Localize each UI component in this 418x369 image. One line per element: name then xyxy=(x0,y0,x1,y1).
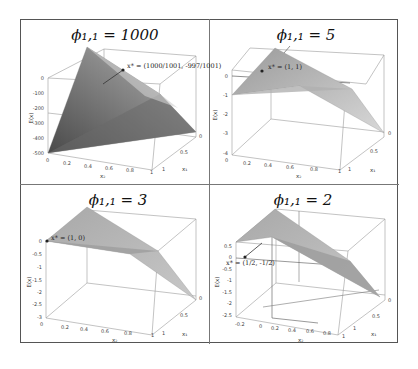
svg-text:-1: -1 xyxy=(223,92,228,98)
svg-text:0.8: 0.8 xyxy=(126,167,134,173)
optimum-point xyxy=(121,68,124,71)
svg-text:0.4: 0.4 xyxy=(84,163,92,169)
z-axis-label: E(x) xyxy=(26,276,32,287)
svg-text:0.6: 0.6 xyxy=(306,328,314,334)
svg-text:0.4: 0.4 xyxy=(264,162,272,168)
svg-text:0.5: 0.5 xyxy=(180,312,188,318)
svg-text:1: 1 xyxy=(162,330,165,336)
y-ticks: 0 0.5 1 xyxy=(353,297,391,331)
svg-text:0.8: 0.8 xyxy=(323,330,331,336)
svg-text:-500: -500 xyxy=(33,150,44,156)
svg-text:-4: -4 xyxy=(223,150,228,156)
panel-title: ϕ₁,₁ = 3 xyxy=(89,191,148,209)
svg-text:0: 0 xyxy=(225,73,228,79)
svg-text:0: 0 xyxy=(388,130,391,136)
svg-text:0.4: 0.4 xyxy=(80,326,88,332)
svg-text:-0.5: -0.5 xyxy=(32,251,42,257)
z-axis-label: E(x) xyxy=(214,276,220,287)
panel-title: ϕ₁,₁ = 5 xyxy=(277,26,336,44)
svg-text:0: 0 xyxy=(39,238,42,244)
svg-text:-1.5: -1.5 xyxy=(32,277,42,283)
svg-text:0: 0 xyxy=(229,254,232,260)
optimum-annotation: x* = (1/2, -1/2) xyxy=(226,259,275,267)
svg-text:0: 0 xyxy=(41,75,44,81)
svg-text:0.2: 0.2 xyxy=(271,325,279,331)
surface xyxy=(46,207,196,300)
svg-text:0.4: 0.4 xyxy=(288,327,296,333)
panel-3: ϕ₁,₁ = 3 x* = (1, 0) 0 -0.5 -1 -1.5 -2 -… xyxy=(26,191,202,343)
y-axis-label: x₁ xyxy=(182,331,187,337)
panel-1: ϕ₁,₁ = 1000 x* = (1000/1001, -997/1001) … xyxy=(28,26,222,179)
z-ticks: 0 -1 -2 -3 -4 xyxy=(223,73,228,156)
svg-text:0: 0 xyxy=(40,321,43,327)
optimum-annotation: x* = (1, 1) xyxy=(268,63,302,71)
figure: ϕ₁,₁ = 1000 x* = (1000/1001, -997/1001) … xyxy=(0,0,418,369)
z-ticks: 0.5 0 -0.5 -1 -1.5 -2 -2.5 xyxy=(222,243,232,318)
svg-text:-2.5: -2.5 xyxy=(222,312,232,318)
x-ticks: 0 0.2 0.4 0.6 0.8 1 xyxy=(225,157,341,174)
svg-text:0: 0 xyxy=(259,323,262,329)
svg-text:1: 1 xyxy=(151,332,154,338)
svg-text:-1.5: -1.5 xyxy=(222,289,232,295)
svg-text:-1: -1 xyxy=(37,264,42,270)
x-axis-label: x₂ xyxy=(296,173,301,179)
svg-text:0.5: 0.5 xyxy=(180,149,188,155)
x-ticks: -0.2 0 0.2 0.4 0.6 0.8 1 xyxy=(235,321,345,339)
svg-text:-3: -3 xyxy=(223,130,228,136)
optimum-point xyxy=(45,239,48,242)
svg-text:-2.5: -2.5 xyxy=(32,301,42,307)
y-axis-label: x₁ xyxy=(182,166,187,172)
svg-text:-200: -200 xyxy=(33,105,44,111)
x-axis-label: x₂ xyxy=(112,337,117,343)
z-axis-label: E(x) xyxy=(28,112,34,123)
x-ticks: 0 0.2 0.4 0.6 0.8 1 xyxy=(40,321,154,338)
y-axis-label: x₁ xyxy=(370,167,375,173)
y-axis-label: x₁ xyxy=(371,331,376,337)
svg-text:1: 1 xyxy=(150,169,153,175)
svg-text:-0.2: -0.2 xyxy=(235,321,245,327)
svg-text:0.2: 0.2 xyxy=(61,324,69,330)
svg-text:0.6: 0.6 xyxy=(286,164,294,170)
svg-text:1: 1 xyxy=(338,168,341,174)
svg-text:0: 0 xyxy=(225,157,228,163)
svg-text:-300: -300 xyxy=(33,120,44,126)
svg-text:-1: -1 xyxy=(227,277,232,283)
svg-text:0.5: 0.5 xyxy=(370,148,378,154)
svg-text:0.8: 0.8 xyxy=(310,166,318,172)
svg-text:1: 1 xyxy=(348,166,351,172)
svg-text:-0.5: -0.5 xyxy=(222,266,232,272)
svg-text:0: 0 xyxy=(388,297,391,303)
svg-text:0.8: 0.8 xyxy=(124,330,132,336)
svg-text:0.2: 0.2 xyxy=(63,160,71,166)
svg-text:-3: -3 xyxy=(37,314,42,320)
z-ticks: 0 -100 -200 -300 -400 -500 xyxy=(33,75,44,156)
z-axis-label: E(x) xyxy=(212,109,218,120)
z-ticks: 0 -0.5 -1 -1.5 -2 -2.5 -3 xyxy=(32,238,42,320)
svg-text:-2: -2 xyxy=(223,111,228,117)
svg-text:0.6: 0.6 xyxy=(105,165,113,171)
panel-4: ϕ₁,₁ = 2 x* = (1/2, -1/2) 0.5 0 xyxy=(214,191,391,343)
y-ticks: 0 0.5 1 xyxy=(348,130,391,172)
plots-canvas: ϕ₁,₁ = 1000 x* = (1000/1001, -997/1001) … xyxy=(0,0,418,369)
svg-text:0: 0 xyxy=(199,133,202,139)
svg-text:0.6: 0.6 xyxy=(101,328,109,334)
optimum-point xyxy=(260,69,263,72)
svg-text:1: 1 xyxy=(353,325,356,331)
svg-text:-100: -100 xyxy=(33,90,44,96)
svg-text:-400: -400 xyxy=(33,135,44,141)
svg-text:1: 1 xyxy=(162,166,165,172)
optimum-line xyxy=(245,243,262,257)
svg-text:0.5: 0.5 xyxy=(372,313,380,319)
y-ticks: 0 0.5 1 xyxy=(162,295,202,336)
svg-text:0.5: 0.5 xyxy=(224,243,232,249)
x-axis-label: x₂ xyxy=(100,173,105,179)
panel-title: ϕ₁,₁ = 1000 xyxy=(71,26,159,44)
svg-text:0: 0 xyxy=(199,295,202,301)
svg-text:1: 1 xyxy=(342,333,345,339)
svg-text:0.2: 0.2 xyxy=(243,160,251,166)
x-axis-label: x₂ xyxy=(298,337,303,343)
panel-title: ϕ₁,₁ = 2 xyxy=(274,191,333,209)
svg-text:-2: -2 xyxy=(37,289,42,295)
optimum-annotation: x* = (1, 0) xyxy=(51,234,85,242)
panel-2: ϕ₁,₁ = 5 x* = (1, 1) 0 -1 -2 -3 -4 xyxy=(212,26,391,179)
